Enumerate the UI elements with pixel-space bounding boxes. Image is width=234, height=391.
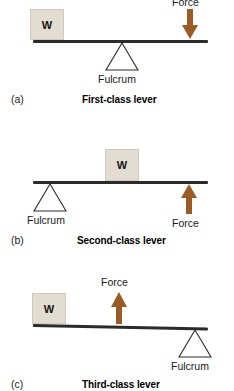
figure-first-class-lever: Force W Fulcrum (a) First-class lever xyxy=(0,0,234,130)
figure-caption-c: Third-class lever xyxy=(82,379,160,390)
force-arrow-up-icon-b xyxy=(180,183,198,214)
fulcrum-label-b: Fulcrum xyxy=(27,215,65,226)
fulcrum-label-a: Fulcrum xyxy=(98,74,136,85)
force-arrow-up-icon-c xyxy=(110,291,128,324)
force-arrow-down-icon-a xyxy=(181,9,199,40)
force-label-b: Force xyxy=(172,218,199,229)
figure-second-class-lever: W Fulcrum Force (b) Second-class lever xyxy=(0,130,234,260)
figure-caption-a: First-class lever xyxy=(82,94,156,105)
fulcrum-label-c: Fulcrum xyxy=(171,361,209,372)
weight-label-b: W xyxy=(117,159,128,171)
figure-enumeration-a: (a) xyxy=(11,93,24,105)
weight-block-a: W xyxy=(30,9,64,40)
figure-enumeration-c: (c) xyxy=(11,378,23,390)
weight-block-b: W xyxy=(105,149,139,181)
fulcrum-triangle-c xyxy=(178,329,212,358)
fulcrum-triangle-b xyxy=(33,183,67,212)
figure-caption-b: Second-class lever xyxy=(77,235,166,246)
figure-third-class-lever: Force W Fulcrum (c) Third-class lever xyxy=(0,260,234,391)
figure-enumeration-b: (b) xyxy=(11,234,24,246)
weight-label-a: W xyxy=(42,19,53,31)
weight-label-c: W xyxy=(44,303,55,315)
force-label-c: Force xyxy=(101,277,128,288)
weight-block-c: W xyxy=(32,293,66,324)
fulcrum-triangle-a xyxy=(105,42,139,71)
force-label-a: Force xyxy=(172,0,199,8)
